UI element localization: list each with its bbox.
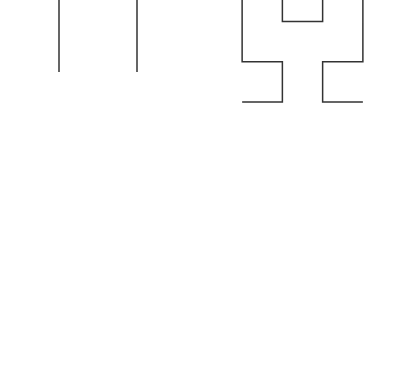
hilbert-curve-order-1-path bbox=[59, 0, 137, 72]
panel-order-4 bbox=[202, 186, 404, 371]
hilbert-curve-order-2-svg bbox=[202, 0, 404, 186]
panel-order-1 bbox=[0, 0, 202, 186]
hilbert-curve-order-3-svg bbox=[0, 186, 202, 371]
panel-order-3 bbox=[0, 186, 202, 371]
hilbert-curve-order-2-path bbox=[242, 0, 363, 102]
hilbert-curve-order-1-svg bbox=[0, 0, 202, 186]
panel-order-2 bbox=[202, 0, 404, 186]
hilbert-curve-order-4-svg bbox=[202, 186, 404, 371]
hilbert-curve-figure bbox=[0, 0, 404, 371]
